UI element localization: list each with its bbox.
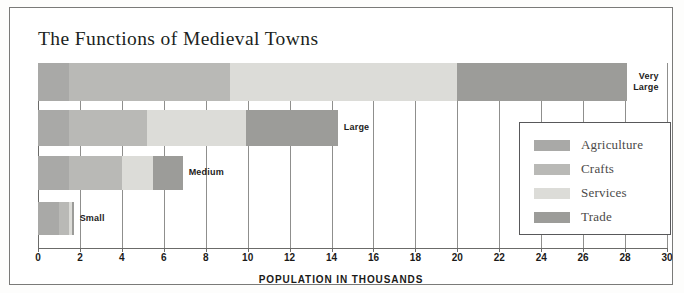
legend-label: Crafts bbox=[581, 161, 614, 177]
x-tick-label-14: 14 bbox=[326, 252, 337, 263]
legend-swatch-icon bbox=[534, 140, 570, 151]
legend-label: Trade bbox=[581, 209, 612, 225]
x-tick-label-2: 2 bbox=[77, 252, 83, 263]
x-tick-label-4: 4 bbox=[119, 252, 125, 263]
bar-segment-agriculture[interactable] bbox=[38, 110, 69, 146]
bar-segment-services[interactable] bbox=[122, 156, 153, 190]
x-tick-label-16: 16 bbox=[368, 252, 379, 263]
bar-segment-trade[interactable] bbox=[153, 156, 182, 190]
bar-segment-trade[interactable] bbox=[457, 63, 627, 101]
bar-row[interactable] bbox=[38, 156, 183, 190]
x-tick-label-22: 22 bbox=[494, 252, 505, 263]
bar-segment-agriculture[interactable] bbox=[38, 156, 69, 190]
legend-item[interactable]: Crafts bbox=[534, 157, 670, 181]
bar-label-small: Small bbox=[80, 213, 105, 224]
chart-legend: AgricultureCraftsServicesTrade bbox=[519, 122, 671, 235]
x-tick-label-18: 18 bbox=[410, 252, 421, 263]
x-tick-label-10: 10 bbox=[242, 252, 253, 263]
x-tick-label-24: 24 bbox=[536, 252, 547, 263]
bar-label-very-large: Very Large bbox=[633, 71, 659, 92]
bar-row[interactable] bbox=[38, 202, 74, 235]
x-tick-label-6: 6 bbox=[161, 252, 167, 263]
bar-segment-crafts[interactable] bbox=[69, 156, 121, 190]
bar-row[interactable] bbox=[38, 110, 338, 146]
legend-label: Agriculture bbox=[581, 137, 643, 153]
legend-label: Services bbox=[581, 185, 627, 201]
legend-item[interactable]: Trade bbox=[534, 205, 670, 229]
bar-segment-services[interactable] bbox=[230, 63, 457, 101]
page-title: The Functions of Medieval Towns bbox=[38, 28, 318, 50]
legend-item[interactable]: Agriculture bbox=[534, 133, 670, 157]
bar-segment-trade[interactable] bbox=[72, 202, 74, 235]
x-tick-label-8: 8 bbox=[203, 252, 209, 263]
bar-segment-agriculture[interactable] bbox=[38, 202, 59, 235]
bar-label-large: Large bbox=[344, 122, 370, 133]
chart-page: The Functions of Medieval Towns Very Lar… bbox=[0, 0, 684, 293]
bar-segment-services[interactable] bbox=[147, 110, 246, 146]
x-tick-label-12: 12 bbox=[284, 252, 295, 263]
legend-swatch-icon bbox=[534, 188, 570, 199]
x-tick-label-20: 20 bbox=[452, 252, 463, 263]
x-tick-label-28: 28 bbox=[620, 252, 631, 263]
bar-label-medium: Medium bbox=[189, 167, 224, 178]
legend-item[interactable]: Services bbox=[534, 181, 670, 205]
bar-segment-crafts[interactable] bbox=[69, 63, 229, 101]
x-axis: 024681012141618202224262830 bbox=[38, 248, 667, 266]
x-tick-label-26: 26 bbox=[578, 252, 589, 263]
x-tick-label-0: 0 bbox=[35, 252, 41, 263]
legend-swatch-icon bbox=[534, 212, 570, 223]
x-axis-title: POPULATION IN THOUSANDS bbox=[10, 274, 672, 285]
legend-swatch-icon bbox=[534, 164, 570, 175]
bar-segment-trade[interactable] bbox=[246, 110, 338, 146]
chart-frame: The Functions of Medieval Towns Very Lar… bbox=[9, 7, 673, 285]
bar-row[interactable] bbox=[38, 63, 627, 101]
bar-segment-crafts[interactable] bbox=[59, 202, 69, 235]
x-axis-line bbox=[38, 248, 667, 249]
bar-segment-agriculture[interactable] bbox=[38, 63, 69, 101]
bar-segment-crafts[interactable] bbox=[69, 110, 147, 146]
x-tick-label-30: 30 bbox=[661, 252, 672, 263]
